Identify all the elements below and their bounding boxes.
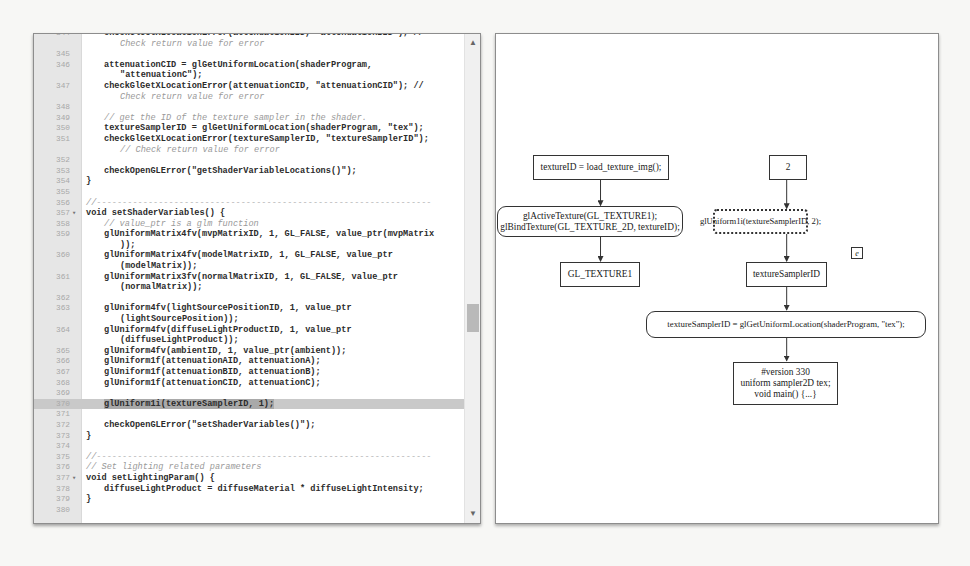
code-line-highlighted[interactable]: 370glUniform1i(textureSamplerID, 1); [34,399,466,410]
code-line[interactable]: 357▾void setShaderVariables() { [34,208,466,219]
line-number: 378 [34,484,70,495]
line-number: 346 [34,60,70,71]
line-number: 365 [34,346,70,357]
code-line[interactable]: 358// value_ptr is a glm function [34,219,466,230]
code-line[interactable]: 366glUniform1f(attenuationAID, attenuati… [34,356,466,367]
code-text: textureSamplerID = glGetUniformLocation(… [104,123,424,134]
code-line[interactable]: )); [34,240,466,251]
code-text: Check return value for error [120,39,264,50]
code-line[interactable]: (normalMatrix)); [34,282,466,293]
code-text: } [86,494,91,505]
code-line[interactable]: 361glUniformMatrix3fv(normalMatrixID, 1,… [34,272,466,283]
code-text: glUniformMatrix4fv(mvpMatrixID, 1, GL_FA… [104,229,434,240]
node-gl-texture1: GL_TEXTURE1 [560,262,640,287]
code-line[interactable]: 350textureSamplerID = glGetUniformLocati… [34,123,466,134]
line-number: 360 [34,250,70,261]
code-text: checkGlGetXLocationError(textureSamplerI… [104,134,429,145]
code-text: diffuseLightProduct = diffuseMaterial * … [104,484,424,495]
code-line[interactable]: 356//-----------------------------------… [34,198,466,209]
code-line[interactable]: 373} [34,431,466,442]
scrollbar-thumb[interactable] [467,304,479,332]
code-text: glUniform1i(textureSamplerID, 1); [104,399,274,410]
code-line[interactable]: (modelMatrix)); [34,261,466,272]
code-line[interactable]: 353checkOpenGLError("getShaderVariableLo… [34,166,466,177]
code-line[interactable]: 380 [34,505,466,516]
scroll-down-arrow-icon[interactable]: ▼ [465,507,481,521]
code-line[interactable]: 378diffuseLightProduct = diffuseMaterial… [34,484,466,495]
code-text: )); [120,240,135,251]
code-line[interactable]: 360glUniformMatrix4fv(modelMatrixID, 1, … [34,250,466,261]
code-text: glUniform4fv(ambientID, 1, value_ptr(amb… [104,346,346,357]
code-line[interactable]: 379} [34,494,466,505]
vertical-scrollbar[interactable]: ▲ ▼ [464,34,480,523]
code-line[interactable]: 368glUniform1f(attenuationCID, attenuati… [34,378,466,389]
code-text: //--------------------------------------… [86,452,432,463]
code-line[interactable]: 367glUniform1f(attenuationBID, attenuati… [34,367,466,378]
code-text: } [86,176,91,187]
line-number: 376 [34,462,70,473]
code-text: "attenuationC"); [120,70,203,81]
line-number: 375 [34,452,70,463]
code-text: // value_ptr is a glm function [104,219,259,230]
code-text: glUniform4fv(diffuseLightProductID, 1, v… [104,325,352,336]
code-line[interactable]: 362 [34,293,466,304]
code-line[interactable]: 349// get the ID of the texture sampler … [34,113,466,124]
node-marker-e: e [851,247,863,259]
code-line[interactable]: 365glUniform4fv(ambientID, 1, value_ptr(… [34,346,466,357]
line-number: 366 [34,356,70,367]
code-line[interactable]: 352 [34,155,466,166]
line-number: 349 [34,113,70,124]
line-number: 380 [34,505,70,516]
code-text: glUniformMatrix4fv(modelMatrixID, 1, GL_… [104,250,393,261]
line-number: 373 [34,431,70,442]
code-line[interactable]: 347checkGlGetXLocationError(attenuationC… [34,81,466,92]
dataflow-diagram: textureID = load_texture_img(); 2 glActi… [495,33,939,524]
line-number: 354 [34,176,70,187]
code-line[interactable]: 346attenuationCID = glGetUniformLocation… [34,60,466,71]
code-line[interactable]: Check return value for error [34,92,466,103]
line-number: 347 [34,81,70,92]
code-line[interactable]: 351checkGlGetXLocationError(textureSampl… [34,134,466,145]
line-number: 362 [34,293,70,304]
scroll-up-arrow-icon[interactable]: ▲ [465,36,481,50]
code-editor[interactable]: 344checkGlGetXLocationError(attenuationB… [33,33,481,524]
code-line[interactable]: "attenuationC"); [34,70,466,81]
code-line[interactable]: (lightSourcePosition)); [34,314,466,325]
line-number: 364 [34,325,70,336]
code-text: (modelMatrix)); [120,261,197,272]
fold-toggle-icon[interactable]: ▾ [72,473,76,484]
line-number: 379 [34,494,70,505]
code-line[interactable]: 375//-----------------------------------… [34,452,466,463]
code-line[interactable]: 348 [34,102,466,113]
code-line[interactable]: // Check return value for error [34,145,466,156]
code-line[interactable]: Check return value for error [34,39,466,50]
node-get-uniform-location: textureSamplerID = glGetUniformLocation(… [646,311,926,338]
line-number: 358 [34,219,70,230]
code-line[interactable]: 374 [34,441,466,452]
code-line[interactable]: 376// Set lighting related parameters [34,462,466,473]
code-text: (lightSourcePosition)); [120,314,239,325]
code-line[interactable]: 364glUniform4fv(diffuseLightProductID, 1… [34,325,466,336]
line-number: 368 [34,378,70,389]
code-line[interactable]: 377▾void setLightingParam() { [34,473,466,484]
code-text: // get the ID of the texture sampler in … [104,113,367,124]
code-line[interactable]: 369 [34,388,466,399]
code-line[interactable]: 355 [34,187,466,198]
code-text: // Set lighting related parameters [86,462,261,473]
code-line[interactable]: 371 [34,409,466,420]
node-uniform1i: glUniform1i(textureSamplerID, 2); [713,209,808,234]
code-lines[interactable]: 344checkGlGetXLocationError(attenuationB… [34,33,466,515]
node-value-2: 2 [769,155,807,180]
code-line[interactable]: 345 [34,49,466,60]
code-line[interactable]: (diffuseLightProduct)); [34,335,466,346]
line-number: 345 [34,49,70,60]
line-number: 353 [34,166,70,177]
line-number: 350 [34,123,70,134]
line-number: 357 [34,208,70,219]
line-number: 377 [34,473,70,484]
code-line[interactable]: 354} [34,176,466,187]
fold-toggle-icon[interactable]: ▾ [72,208,76,219]
code-line[interactable]: 359glUniformMatrix4fv(mvpMatrixID, 1, GL… [34,229,466,240]
code-line[interactable]: 363glUniform4fv(lightSourcePositionID, 1… [34,303,466,314]
code-line[interactable]: 372checkOpenGLError("setShaderVariables(… [34,420,466,431]
